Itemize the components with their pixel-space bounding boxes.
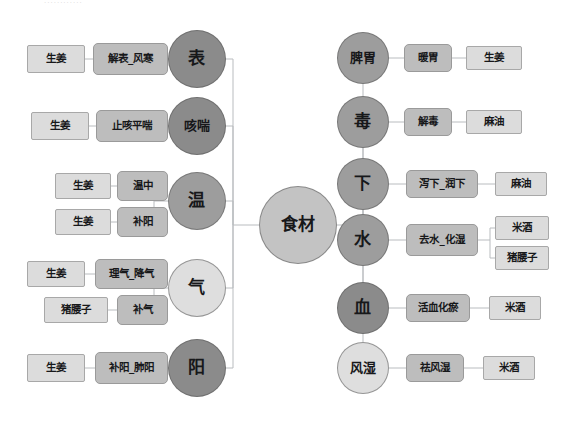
node-label: 活血化瘀 bbox=[418, 302, 458, 313]
node-label: 温 bbox=[188, 192, 206, 210]
category-node-left-0[interactable]: 表 bbox=[168, 30, 226, 88]
node-label: 下 bbox=[354, 175, 372, 193]
effect-node-r5-0[interactable]: 祛风湿 bbox=[406, 354, 464, 382]
category-node-left-1[interactable]: 咳喘 bbox=[168, 97, 226, 155]
left-bus-arm bbox=[226, 225, 233, 368]
ingredient-node-r4-0-0[interactable]: 米酒 bbox=[489, 296, 541, 320]
node-label: 气 bbox=[188, 279, 206, 297]
ingredient-node-r3-0-0[interactable]: 米酒 bbox=[495, 216, 549, 240]
node-label: 补气 bbox=[133, 304, 153, 315]
node-label: 祛风湿 bbox=[420, 362, 450, 373]
ingredient-node-r2-0-0[interactable]: 麻油 bbox=[495, 172, 547, 196]
node-label: 毒 bbox=[354, 113, 372, 131]
effect-node-3-0[interactable]: 理气_降气 bbox=[95, 259, 168, 289]
node-label: 去水_化湿 bbox=[419, 234, 464, 245]
ingredient-node-r3-0-1[interactable]: 猪腰子 bbox=[495, 246, 549, 270]
node-label: 生姜 bbox=[46, 268, 66, 279]
ingredient-node-0-0-0[interactable]: 生姜 bbox=[27, 45, 85, 73]
node-label: 麻油 bbox=[511, 178, 531, 189]
node-label: 生姜 bbox=[50, 120, 70, 131]
node-label: 阳 bbox=[188, 359, 206, 377]
node-label: 理气_降气 bbox=[109, 268, 154, 279]
node-label: 水 bbox=[354, 231, 372, 249]
top-caption: ············ bbox=[44, 0, 83, 7]
ingredient-node-3-1-0[interactable]: 猪腰子 bbox=[44, 297, 108, 323]
effect-node-r0-0[interactable]: 暖胃 bbox=[404, 44, 452, 72]
left-bus-arm bbox=[226, 225, 233, 288]
ingredient-node-4-0-0[interactable]: 生姜 bbox=[27, 354, 85, 382]
category-node-left-4[interactable]: 阳 bbox=[168, 339, 226, 397]
category-node-right-3[interactable]: 水 bbox=[337, 214, 389, 266]
node-label: 血 bbox=[354, 299, 372, 317]
left-bus-arm bbox=[226, 201, 233, 225]
effect-node-1-0[interactable]: 止咳平喘 bbox=[96, 110, 168, 142]
node-label: 风湿 bbox=[350, 361, 377, 375]
node-label: 补阳_肺阳 bbox=[109, 362, 154, 373]
node-label: 生姜 bbox=[46, 362, 66, 373]
node-label: 泻下_润下 bbox=[419, 178, 464, 189]
node-label: 解表_风寒 bbox=[108, 53, 153, 64]
node-label: 脾胃 bbox=[350, 51, 377, 65]
category-node-left-2[interactable]: 温 bbox=[168, 172, 226, 230]
left-bus-arm bbox=[226, 126, 233, 225]
node-label: 温中 bbox=[133, 180, 153, 191]
node-label: 米酒 bbox=[505, 302, 525, 313]
node-label: 米酒 bbox=[499, 362, 519, 373]
category-node-right-5[interactable]: 风湿 bbox=[337, 342, 389, 394]
category-node-right-2[interactable]: 下 bbox=[337, 158, 389, 210]
node-label: 生姜 bbox=[73, 216, 93, 227]
ingredient-node-2-1-0[interactable]: 生姜 bbox=[55, 209, 111, 235]
effect-node-r1-0[interactable]: 解毒 bbox=[404, 108, 452, 136]
effect-node-3-1[interactable]: 补气 bbox=[117, 295, 168, 325]
effect-node-0-0[interactable]: 解表_风寒 bbox=[93, 43, 168, 75]
ingredient-node-r5-0-0[interactable]: 米酒 bbox=[483, 356, 535, 380]
node-label: 猪腰子 bbox=[61, 304, 91, 315]
ingredient-node-r1-0-0[interactable]: 麻油 bbox=[466, 110, 522, 134]
effect-node-4-0[interactable]: 补阳_肺阳 bbox=[95, 352, 168, 384]
ingredient-node-1-0-0[interactable]: 生姜 bbox=[31, 112, 89, 140]
left-bus-arm bbox=[226, 59, 233, 225]
node-label: 表 bbox=[188, 50, 206, 68]
center-node-root[interactable]: 食材 bbox=[259, 186, 337, 264]
effect-node-r4-0[interactable]: 活血化瘀 bbox=[406, 294, 470, 322]
node-label: 猪腰子 bbox=[507, 252, 537, 263]
diagram-canvas: ············ 解表_风寒生姜表止咳平喘生姜咳喘温中生姜补阳生姜温理气… bbox=[0, 0, 573, 425]
node-label: 生姜 bbox=[46, 53, 66, 64]
ingredient-node-r0-0-0[interactable]: 生姜 bbox=[466, 46, 522, 70]
effect-node-2-1[interactable]: 补阳 bbox=[117, 207, 168, 237]
effect-node-r3-0[interactable]: 去水_化湿 bbox=[406, 224, 478, 256]
effect-node-r2-0[interactable]: 泻下_润下 bbox=[406, 170, 478, 198]
node-label: 解毒 bbox=[418, 116, 438, 127]
ingredient-node-2-0-0[interactable]: 生姜 bbox=[55, 173, 111, 199]
effect-node-2-0[interactable]: 温中 bbox=[117, 171, 168, 201]
node-label: 麻油 bbox=[484, 116, 504, 127]
node-label: 补阳 bbox=[133, 216, 153, 227]
node-label: 止咳平喘 bbox=[112, 120, 152, 131]
category-node-left-3[interactable]: 气 bbox=[168, 259, 226, 317]
node-label: 咳喘 bbox=[184, 119, 211, 133]
center-node-label: 食材 bbox=[281, 216, 316, 234]
node-label: 米酒 bbox=[512, 222, 532, 233]
category-node-right-1[interactable]: 毒 bbox=[337, 96, 389, 148]
ingredient-node-3-0-0[interactable]: 生姜 bbox=[27, 261, 85, 287]
node-label: 生姜 bbox=[484, 52, 504, 63]
category-node-right-0[interactable]: 脾胃 bbox=[337, 32, 389, 84]
node-label: 生姜 bbox=[73, 180, 93, 191]
node-label: 暖胃 bbox=[418, 52, 438, 63]
category-node-right-4[interactable]: 血 bbox=[337, 282, 389, 334]
